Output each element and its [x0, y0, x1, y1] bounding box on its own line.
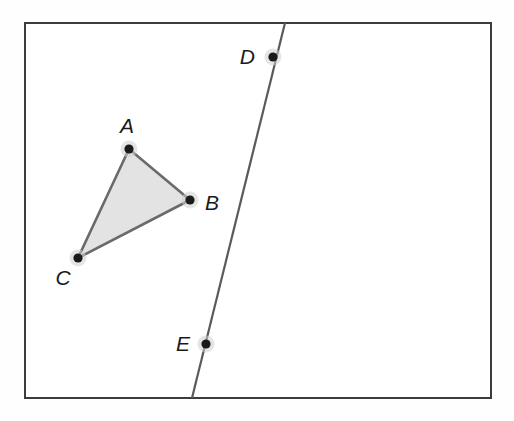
- geometry-diagram: ABCDE: [0, 0, 514, 421]
- figure-canvas: ABCDE: [0, 0, 514, 421]
- bounding-box: [25, 23, 491, 398]
- point-d[interactable]: [265, 49, 282, 66]
- point-label-d: D: [240, 45, 255, 68]
- point-e[interactable]: [198, 336, 215, 353]
- point-label-a: A: [118, 114, 134, 137]
- point-dot-a[interactable]: [124, 144, 133, 153]
- point-dot-c[interactable]: [73, 253, 82, 262]
- point-dot-e[interactable]: [201, 339, 210, 348]
- point-label-e: E: [176, 332, 191, 355]
- point-dot-d[interactable]: [268, 52, 277, 61]
- point-b[interactable]: [182, 192, 199, 209]
- point-label-b: B: [205, 191, 219, 214]
- point-c[interactable]: [70, 250, 87, 267]
- point-dot-b[interactable]: [185, 195, 194, 204]
- point-label-c: C: [55, 266, 71, 289]
- point-a[interactable]: [121, 141, 138, 158]
